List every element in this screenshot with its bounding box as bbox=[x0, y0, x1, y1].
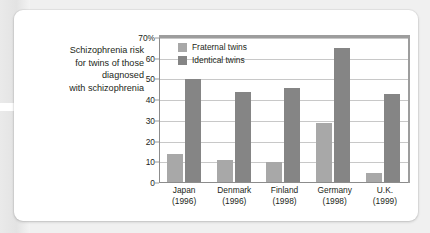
x-axis-label-year: (1999) bbox=[360, 196, 410, 207]
figure-caption: Schizophrenia risk for twins of those di… bbox=[20, 44, 144, 94]
x-axis-line bbox=[159, 182, 408, 183]
legend-swatch-identical-icon bbox=[178, 56, 187, 65]
screenshot-stage: Schizophrenia risk for twins of those di… bbox=[0, 0, 430, 233]
legend-item-identical: Identical twins bbox=[178, 55, 247, 65]
legend-swatch-fraternal-icon bbox=[178, 43, 187, 52]
bar-group bbox=[259, 38, 309, 183]
legend-label-fraternal: Fraternal twins bbox=[192, 42, 247, 52]
y-tick-label: 10 bbox=[146, 157, 155, 167]
caption-line-1: Schizophrenia risk bbox=[20, 44, 144, 57]
x-axis-label: Denmark(1996) bbox=[209, 185, 259, 206]
caption-line-3: diagnosed bbox=[20, 69, 144, 82]
x-axis-labels: Japan(1996)Denmark(1996)Finland(1998)Ger… bbox=[159, 185, 410, 206]
y-axis-line bbox=[159, 38, 160, 183]
bar-group bbox=[358, 38, 408, 183]
y-tick-label: 50 bbox=[146, 74, 155, 84]
x-axis-label: Finland(1998) bbox=[259, 185, 309, 206]
x-axis-label-year: (1998) bbox=[310, 196, 360, 207]
legend-item-fraternal: Fraternal twins bbox=[178, 42, 247, 52]
bar-group bbox=[308, 38, 358, 183]
y-tick-label: 30 bbox=[146, 116, 155, 126]
bar bbox=[217, 160, 233, 183]
x-axis-label-country: Germany bbox=[310, 185, 360, 196]
bar bbox=[334, 48, 350, 183]
caption-line-2: for twins of those bbox=[20, 57, 144, 70]
x-axis-label-country: Denmark bbox=[209, 185, 259, 196]
bar bbox=[185, 79, 201, 183]
x-axis-label-country: Finland bbox=[259, 185, 309, 196]
chart-legend: Fraternal twins Identical twins bbox=[178, 42, 247, 68]
x-axis-label-country: U.K. bbox=[360, 185, 410, 196]
figure-card: Schizophrenia risk for twins of those di… bbox=[14, 10, 418, 221]
bar bbox=[235, 92, 251, 183]
y-tick-label: 0 bbox=[150, 178, 155, 188]
legend-label-identical: Identical twins bbox=[192, 55, 245, 65]
x-axis-label-year: (1996) bbox=[159, 196, 209, 207]
x-axis-label-country: Japan bbox=[159, 185, 209, 196]
x-axis-label: Japan(1996) bbox=[159, 185, 209, 206]
bar bbox=[316, 123, 332, 183]
bar bbox=[384, 94, 400, 183]
y-tick-label: 40 bbox=[146, 95, 155, 105]
x-axis-label: Germany(1998) bbox=[310, 185, 360, 206]
caption-line-4: with schizophrenia bbox=[20, 82, 144, 95]
x-axis-label-year: (1998) bbox=[259, 196, 309, 207]
bar bbox=[167, 154, 183, 183]
x-axis-label: U.K.(1999) bbox=[360, 185, 410, 206]
bar bbox=[266, 162, 282, 183]
x-axis-label-year: (1996) bbox=[209, 196, 259, 207]
y-tick-label: 70% bbox=[138, 33, 155, 43]
y-tick-label: 60 bbox=[146, 54, 155, 64]
y-tick-label: 20 bbox=[146, 137, 155, 147]
bar bbox=[284, 88, 300, 183]
bar-chart: 010203040506070% Fraternal twins Identic… bbox=[142, 24, 412, 208]
